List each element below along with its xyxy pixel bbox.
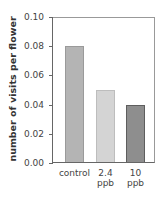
- y-tick: [49, 17, 53, 18]
- y-tick: [49, 163, 53, 164]
- y-tick-label: 0.10: [14, 12, 44, 22]
- y-tick-label: 0.00: [14, 158, 44, 168]
- x-tick-label: 10ppb: [119, 168, 153, 188]
- y-tick: [49, 75, 53, 76]
- bar-2-4-ppb: [96, 90, 115, 162]
- plot-area: [52, 17, 155, 163]
- y-axis-label: number of visits per flower: [7, 11, 21, 167]
- x-tick-label: 2.4ppb: [89, 168, 123, 188]
- y-tick-label: 0.08: [14, 41, 44, 51]
- y-tick-label: 0.06: [14, 70, 44, 80]
- bar-chart: number of visits per flower 0.000.020.04…: [0, 0, 164, 202]
- bar-10-ppb: [126, 105, 145, 162]
- bar-control: [65, 46, 84, 162]
- y-tick: [49, 105, 53, 106]
- y-tick-label: 0.02: [14, 129, 44, 139]
- y-tick-label: 0.04: [14, 100, 44, 110]
- x-tick-label: control: [58, 168, 92, 188]
- y-tick: [49, 46, 53, 47]
- y-tick: [49, 134, 53, 135]
